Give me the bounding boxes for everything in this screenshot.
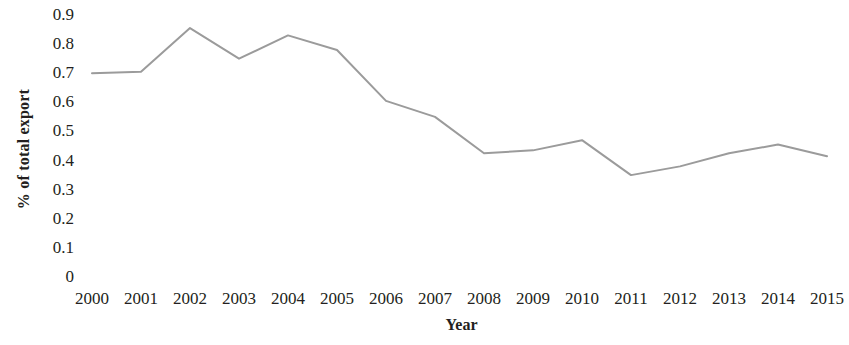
y-axis-tick-label: 0.6 [24, 93, 74, 110]
x-axis-tick-labels: 2000200120022003200420052006200720082009… [74, 288, 849, 316]
line-chart: % of total export 0.90.80.70.60.50.40.30… [0, 0, 849, 345]
x-axis-tick-label: 2015 [797, 288, 849, 310]
y-axis-tick-labels: 0.90.80.70.60.50.40.30.20.10 [24, 0, 74, 290]
plot-area [74, 0, 849, 290]
y-axis-tick-label: 0.4 [24, 152, 74, 169]
y-axis-tick-label: 0.9 [24, 6, 74, 23]
y-axis-tick-label: 0.3 [24, 181, 74, 198]
data-series-line [92, 28, 827, 175]
y-axis-tick-label: 0.1 [24, 239, 74, 256]
x-axis-title: Year [74, 315, 849, 335]
y-axis-tick-label: 0.2 [24, 210, 74, 227]
y-axis-tick-label: 0.7 [24, 64, 74, 81]
y-axis-tick-label: 0 [24, 268, 74, 285]
data-line-svg [74, 0, 849, 290]
y-axis-tick-label: 0.8 [24, 35, 74, 52]
y-axis-tick-label: 0.5 [24, 122, 74, 139]
